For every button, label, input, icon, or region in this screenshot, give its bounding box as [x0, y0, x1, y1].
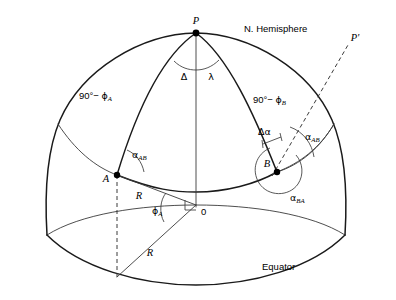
meridian-pa: [117, 33, 196, 175]
label-alpha-ba: αBA: [290, 192, 305, 204]
alpha-ab-b-sub: AB: [310, 136, 319, 143]
dome-outline-left: [46, 33, 196, 235]
label-point-b: B: [264, 158, 271, 169]
parallel-through-a: [58, 124, 117, 175]
point-p-dot: [193, 30, 200, 37]
equator-back-arc: [47, 205, 345, 235]
spherical-triangle-diagram: P P' N. Hemisphere Δ λ 90°− ϕA 90°− ϕB α…: [0, 0, 396, 300]
angle-arc-at-pole: [174, 60, 219, 70]
label-colatitude-b: 90°− ϕB: [253, 94, 286, 106]
label-hemisphere: N. Hemisphere: [244, 23, 307, 34]
angle-arc-delta-alpha-at-b: [263, 137, 281, 144]
colatitude-a-prefix: 90°−: [79, 90, 102, 101]
angle-arc-delta-alpha-tick: [262, 140, 263, 148]
label-phi-a: ϕA: [152, 205, 163, 217]
label-angle-lambda: λ: [208, 71, 214, 82]
alpha-ab-a-sub: AB: [137, 154, 146, 161]
label-point-pprime: P': [350, 32, 360, 43]
radius-o-to-a: [117, 175, 196, 205]
colatitude-b-prefix: 90°−: [253, 94, 276, 105]
label-origin: 0: [201, 206, 206, 217]
point-a-dot: [114, 172, 120, 178]
label-alpha-ab-at-b: αAB: [305, 131, 320, 143]
angle-arc-phi-a-at-origin: [161, 193, 166, 222]
label-delta-alpha: Δα: [258, 126, 271, 137]
label-radius-lower: R: [146, 247, 154, 258]
alpha-ba-sub: BA: [296, 197, 305, 204]
great-circle-arc-ab: [117, 172, 277, 192]
dome-outline-right: [196, 33, 346, 235]
label-equator: Equator: [262, 261, 295, 272]
label-angle-delta: Δ: [181, 71, 188, 82]
label-colatitude-a: 90°− ϕA: [79, 90, 113, 102]
label-point-p: P: [192, 15, 200, 26]
figure-page: P P' N. Hemisphere Δ λ 90°− ϕA 90°− ϕB α…: [0, 0, 396, 300]
label-point-a: A: [102, 173, 110, 184]
phi-a-sub: A: [157, 210, 163, 217]
point-b-dot: [274, 169, 280, 175]
equator-front-arc: [47, 235, 345, 285]
dashed-line-b-to-pprime: [272, 45, 348, 176]
label-radius-upper: R: [135, 190, 143, 201]
label-alpha-ab-at-a: αAB: [132, 149, 147, 161]
colatitude-b-sub: B: [282, 99, 286, 106]
colatitude-a-sub: A: [107, 95, 113, 102]
